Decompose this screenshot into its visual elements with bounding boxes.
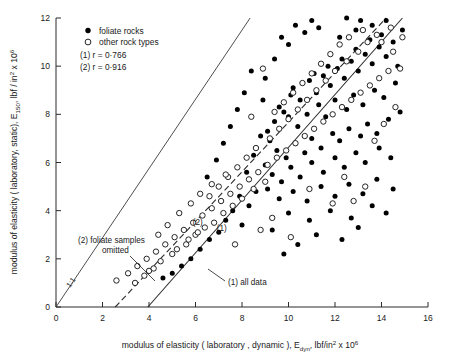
- data-point: [379, 39, 384, 44]
- data-point: [365, 39, 370, 44]
- data-point: [125, 271, 130, 276]
- data-point: [344, 16, 349, 21]
- data-point: [158, 259, 163, 264]
- data-point: [346, 35, 351, 40]
- data-point: [228, 191, 233, 196]
- data-point: [386, 117, 391, 122]
- data-point: [218, 198, 223, 203]
- data-point: [263, 76, 268, 81]
- data-point: [321, 170, 326, 175]
- data-point: [349, 215, 354, 220]
- data-point: [309, 136, 314, 141]
- data-point: [274, 155, 279, 160]
- data-point: [349, 97, 354, 102]
- data-point: [356, 49, 361, 54]
- x-axis-title-part3: x 10: [336, 340, 355, 350]
- data-point: [384, 54, 389, 59]
- data-point: [337, 35, 342, 40]
- data-point: [342, 165, 347, 170]
- data-point: [309, 18, 314, 23]
- y-axis-title-superscript2: 6: [8, 49, 15, 53]
- data-point: [381, 95, 386, 100]
- data-point: [265, 186, 270, 191]
- data-point: [298, 97, 303, 102]
- legend: foliate rocks other rock types (1) r = 0…: [80, 26, 159, 72]
- data-point: [291, 189, 296, 194]
- data-point: [265, 162, 270, 167]
- data-series: [114, 16, 405, 286]
- data-point: [153, 249, 158, 254]
- data-point: [272, 109, 277, 114]
- data-point: [195, 230, 200, 235]
- annotation-foliate-omitted-line1: (2) foliate samples: [78, 236, 145, 245]
- data-point: [376, 76, 381, 81]
- data-point: [223, 172, 228, 177]
- data-point: [302, 30, 307, 35]
- data-point: [333, 97, 338, 102]
- data-point: [156, 232, 161, 237]
- data-point: [209, 206, 214, 211]
- x-tick-label: 4: [147, 313, 152, 323]
- data-point: [144, 256, 149, 261]
- data-point: [358, 134, 363, 139]
- data-point: [305, 112, 310, 117]
- data-point: [316, 25, 321, 30]
- data-point: [170, 271, 175, 276]
- scatter-plot: 0246810121416 024681012 (1)(2) (1) all d…: [0, 0, 456, 363]
- data-point: [277, 196, 282, 201]
- data-point: [372, 138, 377, 143]
- data-point: [214, 158, 219, 163]
- data-point: [260, 97, 265, 102]
- data-point: [237, 184, 242, 189]
- data-point: [242, 90, 247, 95]
- data-point: [307, 186, 312, 191]
- series-foliate-rocks: [160, 16, 404, 281]
- data-point: [305, 199, 310, 204]
- data-point: [277, 126, 282, 131]
- data-point: [398, 109, 403, 114]
- data-point: [397, 66, 402, 71]
- data-point: [279, 35, 284, 40]
- data-point: [160, 276, 165, 281]
- line-label-2: (2): [193, 218, 203, 227]
- data-point: [249, 114, 254, 119]
- legend-marker-other-rock-types: [85, 39, 91, 45]
- data-point: [326, 64, 331, 69]
- annotation-all-data: (1) all data: [228, 278, 267, 287]
- data-point: [356, 225, 361, 230]
- data-point: [307, 78, 312, 83]
- data-point: [135, 263, 140, 268]
- data-point: [353, 28, 358, 33]
- data-point: [270, 227, 275, 232]
- y-tick-label: 12: [41, 13, 51, 23]
- data-point: [277, 105, 282, 110]
- data-point: [358, 18, 363, 23]
- data-point: [318, 61, 323, 66]
- data-point: [295, 107, 300, 112]
- y-tick-label: 0: [45, 302, 50, 312]
- data-point: [274, 148, 279, 153]
- x-axis-ticks: [56, 302, 428, 307]
- data-point: [374, 177, 379, 182]
- data-point: [367, 83, 372, 88]
- x-tick-label: 8: [240, 313, 245, 323]
- data-point: [253, 145, 258, 150]
- x-tick-label: 6: [193, 313, 198, 323]
- data-point: [181, 227, 186, 232]
- x-tick-label: 2: [100, 313, 105, 323]
- data-point: [239, 196, 244, 201]
- data-point: [337, 138, 342, 143]
- data-point: [363, 184, 368, 189]
- y-axis-title-part2: , lbf / in: [9, 75, 19, 103]
- data-point: [393, 104, 398, 109]
- data-point: [246, 203, 251, 208]
- data-point: [198, 247, 203, 252]
- data-point: [281, 109, 286, 114]
- data-point: [377, 146, 382, 151]
- data-point: [290, 90, 295, 95]
- data-point: [186, 237, 191, 242]
- data-point: [339, 104, 344, 109]
- data-point: [244, 170, 249, 175]
- y-axis-ticks: [56, 18, 61, 307]
- data-point: [346, 182, 351, 187]
